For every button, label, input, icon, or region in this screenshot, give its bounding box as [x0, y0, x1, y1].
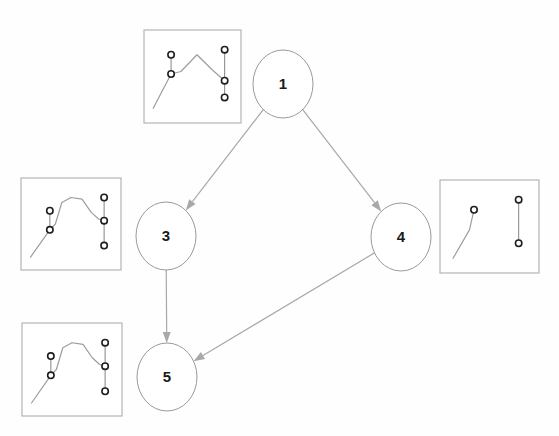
arrow-head-icon: [194, 352, 205, 361]
graph-node-4[interactable]: 4: [371, 203, 431, 271]
thumbnail-frame: [144, 30, 241, 123]
node-label: 3: [162, 227, 170, 244]
graph-svg: 1345: [0, 0, 559, 436]
thumbnail-data-marker[interactable]: [102, 388, 108, 394]
thumbnail-data-marker[interactable]: [102, 363, 108, 369]
thumbnail-data-marker[interactable]: [47, 227, 53, 233]
thumbnail-panel-5[interactable]: [22, 323, 122, 416]
edge-line: [203, 253, 375, 356]
thumbnail-data-marker[interactable]: [47, 208, 53, 214]
thumbnail-data-marker[interactable]: [48, 372, 54, 378]
thumbnail-data-marker[interactable]: [101, 242, 107, 248]
thumbnail-data-marker[interactable]: [101, 194, 107, 200]
graph-node-5[interactable]: 5: [137, 343, 197, 411]
thumbnail-data-marker[interactable]: [221, 94, 227, 100]
edge-1-to-4[interactable]: [303, 110, 382, 212]
thumbnail-data-marker[interactable]: [168, 52, 174, 58]
thumbnail-panel-1[interactable]: [144, 30, 241, 123]
graph-node-3[interactable]: 3: [136, 202, 196, 270]
thumbnail-data-marker[interactable]: [221, 77, 227, 83]
thumbnail-data-marker[interactable]: [221, 47, 227, 53]
thumbnail-panel-4[interactable]: [440, 180, 539, 273]
edge-line: [303, 110, 375, 203]
thumbnail-data-marker[interactable]: [48, 353, 54, 359]
arrow-head-icon: [186, 199, 196, 210]
arrow-head-icon: [371, 200, 381, 211]
thumbnail-data-marker[interactable]: [471, 207, 477, 213]
arrow-head-icon: [163, 332, 171, 343]
graph-node-1[interactable]: 1: [253, 50, 313, 118]
thumbnail-data-marker[interactable]: [101, 217, 107, 223]
node-label: 1: [279, 75, 287, 92]
thumbnail-frame: [440, 180, 539, 273]
node-label: 5: [163, 368, 171, 385]
thumbnail-data-marker[interactable]: [102, 340, 108, 346]
edge-4-to-5[interactable]: [194, 253, 375, 361]
edge-3-to-5[interactable]: [163, 270, 171, 343]
thumbnail-data-marker[interactable]: [515, 197, 521, 203]
thumbnail-panel-3[interactable]: [21, 178, 121, 270]
thumbnail-data-marker[interactable]: [515, 240, 521, 246]
thumbnail-data-marker[interactable]: [168, 71, 174, 77]
edge-1-to-3[interactable]: [186, 110, 264, 211]
diagram-canvas: 1345: [0, 0, 559, 436]
node-label: 4: [397, 228, 406, 245]
